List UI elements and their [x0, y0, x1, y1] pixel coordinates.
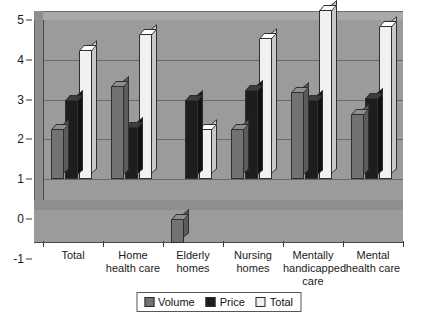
bar-group — [231, 218, 272, 219]
x-axis-label: Nursing homes — [223, 249, 283, 275]
bar-front-face — [51, 129, 64, 179]
y-axis-tick-label: 4 — [17, 53, 24, 67]
x-axis-tick-mark — [223, 241, 224, 247]
x-axis-tick-mark — [43, 241, 44, 247]
y-axis: 543210-1 — [0, 0, 34, 246]
legend-swatch-price — [206, 297, 216, 307]
legend-item-volume: Volume — [144, 296, 195, 308]
x-axis-label: Mentally handicapped care — [283, 249, 343, 288]
bar-front-face — [111, 86, 124, 180]
chart-legend: Volume Price Total — [136, 292, 301, 312]
y-axis-tick-label: 3 — [17, 93, 24, 107]
legend-swatch-volume — [144, 297, 154, 307]
x-axis: TotalHome health careElderly homesNursin… — [43, 241, 403, 287]
chart-container: 543210-1 TotalHome health careElderly ho… — [0, 0, 437, 324]
plot-left-face-corner — [34, 11, 43, 20]
bar-volume-1 — [111, 86, 124, 180]
y-axis-tick-mark — [26, 219, 32, 220]
bar-price-2 — [185, 100, 198, 180]
bar-volume-4 — [291, 92, 304, 180]
x-axis-label: Mental health care — [343, 249, 403, 275]
legend-item-total: Total — [256, 296, 293, 308]
y-axis-tick-label: 1 — [17, 172, 24, 186]
legend-label-total: Total — [270, 296, 293, 308]
y-axis-tick-label: -1 — [13, 252, 24, 266]
y-axis-tick-mark — [26, 258, 32, 259]
plot-left-face — [34, 20, 43, 230]
y-axis-tick-mark — [26, 20, 32, 21]
x-axis-tick-mark — [163, 241, 164, 247]
bars-layer — [43, 20, 403, 259]
legend-label-volume: Volume — [158, 296, 195, 308]
bar-front-face — [351, 114, 364, 180]
bar-front-face — [171, 219, 184, 243]
y-axis-tick-label: 5 — [17, 13, 24, 27]
legend-label-price: Price — [220, 296, 245, 308]
y-axis-tick-mark — [26, 99, 32, 100]
bar-volume-2 — [171, 219, 184, 243]
bar-group — [111, 218, 152, 219]
bar-front-face — [291, 92, 304, 180]
y-axis-tick-mark — [26, 139, 32, 140]
legend-item-price: Price — [206, 296, 245, 308]
y-axis-tick-label: 0 — [17, 212, 24, 226]
y-axis-tick-mark — [26, 179, 32, 180]
bar-group — [351, 218, 392, 219]
bar-volume-5 — [351, 114, 364, 180]
bar-front-face — [185, 100, 198, 180]
bar-volume-0 — [51, 129, 64, 179]
x-axis-tick-mark — [283, 241, 284, 247]
x-axis-tick-mark — [343, 241, 344, 247]
x-axis-tick-mark — [403, 241, 404, 247]
bar-group — [51, 218, 92, 219]
y-axis-tick-label: 2 — [17, 132, 24, 146]
x-axis-label: Home health care — [103, 249, 163, 275]
x-axis-label: Elderly homes — [163, 249, 223, 275]
x-axis-tick-mark — [103, 241, 104, 247]
bar-front-face — [231, 129, 244, 179]
legend-swatch-total — [256, 297, 266, 307]
y-axis-tick-mark — [26, 59, 32, 60]
plot-top-face — [43, 11, 403, 20]
bar-group — [291, 218, 332, 219]
bar-volume-3 — [231, 129, 244, 179]
x-axis-label: Total — [43, 249, 103, 262]
bar-group — [171, 218, 212, 219]
